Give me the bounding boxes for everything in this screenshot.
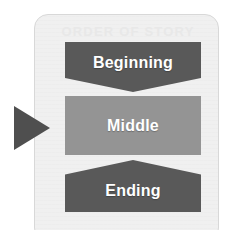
faded-bottom-text	[48, 216, 208, 228]
story-stage-list: Beginning Middle Ending	[65, 42, 201, 212]
stage-label-beginning: Beginning	[93, 54, 173, 72]
stage-label-middle: Middle	[107, 117, 159, 135]
stage-label-ending: Ending	[105, 182, 160, 200]
faded-heading-text: ORDER OF STORY	[40, 24, 216, 40]
right-triangle-pointer-icon	[14, 106, 50, 150]
stage-banner-ending[interactable]: Ending	[65, 160, 201, 212]
diagram-canvas: ORDER OF STORY Beginning Middle Ending	[0, 0, 229, 230]
stage-banner-beginning[interactable]: Beginning	[65, 42, 201, 92]
stage-banner-middle[interactable]: Middle	[65, 96, 201, 155]
